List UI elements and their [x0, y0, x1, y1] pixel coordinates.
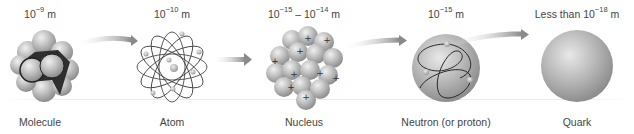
- svg-text:+: +: [332, 73, 340, 83]
- arrow-icon: [452, 29, 529, 44]
- svg-text:+: +: [296, 46, 304, 56]
- svg-text:+: +: [302, 92, 310, 102]
- arrow-icon: [343, 35, 407, 48]
- svg-text:+: +: [271, 56, 279, 66]
- molecule-illustration: [10, 30, 79, 102]
- stage-name-molecule: Molecule: [19, 116, 61, 128]
- nucleus-illustration: + + + + + + + + +: [266, 26, 343, 110]
- svg-text:+: +: [304, 33, 312, 43]
- arrow-icon: [75, 35, 138, 46]
- stage-name-quark: Quark: [563, 116, 592, 128]
- svg-text:+: +: [323, 35, 331, 45]
- stage-name-nucleus: Nucleus: [285, 116, 323, 128]
- svg-text:+: +: [316, 68, 324, 78]
- arrow-icon: [212, 53, 252, 66]
- neutron-illustration: [412, 34, 480, 102]
- quark-illustration: [541, 30, 613, 102]
- stage-name-neutron: Neutron (or proton): [401, 116, 490, 128]
- diagram-artwork: + + + + + + + + +: [0, 0, 634, 134]
- atom-illustration: [135, 30, 209, 104]
- stage-name-atom: Atom: [160, 116, 185, 128]
- svg-text:+: +: [290, 69, 298, 79]
- svg-text:+: +: [287, 82, 295, 92]
